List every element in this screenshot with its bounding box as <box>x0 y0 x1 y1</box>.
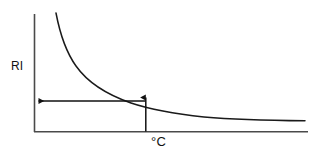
ri-decay-curve <box>56 13 305 121</box>
ri-vs-temperature-chart: RI °C <box>0 0 328 154</box>
plot-area <box>0 0 328 154</box>
x-axis-label: °C <box>151 135 166 148</box>
y-axis-label: RI <box>11 60 23 72</box>
